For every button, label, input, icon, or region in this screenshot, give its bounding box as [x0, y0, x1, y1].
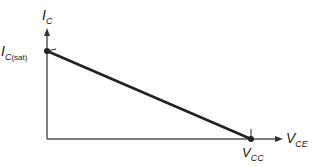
cutoff-subscript: CC	[251, 153, 264, 163]
x-axis-symbol: V	[286, 130, 295, 146]
x-axis-subscript: CE	[295, 139, 308, 149]
x-axis-label: VCE	[286, 131, 308, 149]
y-axis-arrow-icon	[44, 28, 50, 36]
y-axis-subscript: C	[46, 16, 53, 26]
cutoff-symbol: V	[242, 145, 251, 160]
cutoff-label: VCC	[242, 146, 264, 163]
load-line	[47, 51, 251, 139]
x-axis-arrow-icon	[275, 136, 283, 142]
saturation-subscript-extra: (sat)	[11, 53, 27, 62]
y-axis-label: IC	[42, 8, 52, 26]
saturation-label: IC(sat)	[1, 44, 27, 62]
